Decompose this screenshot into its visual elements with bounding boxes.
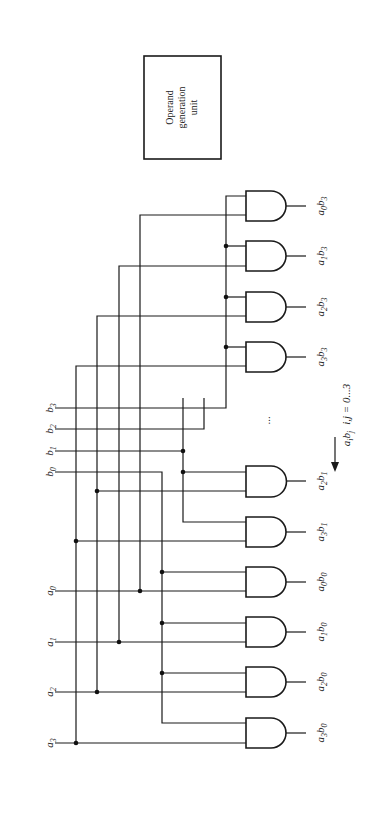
- junction-dot: [181, 449, 186, 454]
- output-annotation: aibji,j = 0...3: [331, 383, 355, 472]
- svg-text:a1b0: a1b0: [314, 623, 329, 642]
- junction-dot: [224, 295, 229, 300]
- junction-dot: [160, 671, 165, 676]
- junction-dot: [224, 244, 229, 249]
- box-label-line-3: unit: [188, 100, 199, 116]
- and-gate-a0b3: a0b3: [246, 191, 329, 221]
- partial-product-circuit-diagram: Operand generation unit b3 b2 b1 b0 a0 a…: [0, 0, 382, 822]
- svg-text:aibji,j = 0...3: aibji,j = 0...3: [340, 383, 355, 446]
- and-gate-a1b0: a1b0: [246, 617, 329, 647]
- and-gates: a0b3 a1b3 a2b3 a3b3 a2b1: [246, 191, 329, 748]
- and-gate-a3b1: a3b1: [246, 517, 329, 547]
- wires: [55, 196, 246, 743]
- and-gate-a2b1: a2b1: [246, 466, 329, 497]
- junction-dot: [224, 345, 229, 350]
- wire-b2: [55, 398, 204, 429]
- svg-text:a3b0: a3b0: [314, 724, 329, 743]
- and-gate-a3b0: a3b0: [246, 718, 329, 748]
- svg-text:...: ...: [260, 416, 272, 424]
- svg-text:a3b3: a3b3: [314, 348, 329, 367]
- wire-b3: [55, 196, 246, 408]
- arrow-down-icon: [331, 462, 339, 472]
- svg-text:a0b0: a0b0: [314, 573, 329, 592]
- svg-text:a0b3: a0b3: [314, 197, 329, 216]
- junction-dot: [74, 539, 79, 544]
- and-gate-a2b3: a2b3: [246, 292, 329, 322]
- box-label-line-2: generation: [176, 86, 187, 128]
- junction-dot: [181, 470, 186, 475]
- junction-dot: [117, 640, 122, 645]
- wire-b0: [55, 472, 246, 723]
- wire-a3-bus: [76, 366, 246, 743]
- junction-dot: [95, 489, 100, 494]
- svg-text:a2b3: a2b3: [314, 298, 329, 317]
- junction-dot: [74, 741, 79, 746]
- wire-a0-bus: [140, 215, 246, 591]
- junction-dot: [138, 589, 143, 594]
- box-label-line-1: Operand: [164, 90, 175, 124]
- svg-text:a2b0: a2b0: [314, 673, 329, 692]
- svg-text:a1b3: a1b3: [314, 247, 329, 266]
- junction-dot: [160, 570, 165, 575]
- junction-dot: [95, 690, 100, 695]
- and-gate-a3b3: a3b3: [246, 342, 329, 372]
- operand-generation-unit-box: Operand generation unit: [144, 56, 221, 159]
- input-labels: b3 b2 b1 b0 a0 a1 a2 a3: [43, 403, 58, 748]
- and-gate-a0b0: a0b0: [246, 567, 329, 597]
- ellipsis: ...: [260, 416, 272, 424]
- wire-b1-bus: [183, 398, 246, 522]
- junction-dot: [160, 621, 165, 626]
- svg-text:a3b1: a3b1: [314, 523, 329, 542]
- and-gate-a2b0: a2b0: [246, 667, 329, 697]
- svg-text:a2b1: a2b1: [314, 472, 329, 491]
- and-gate-a1b3: a1b3: [246, 241, 329, 271]
